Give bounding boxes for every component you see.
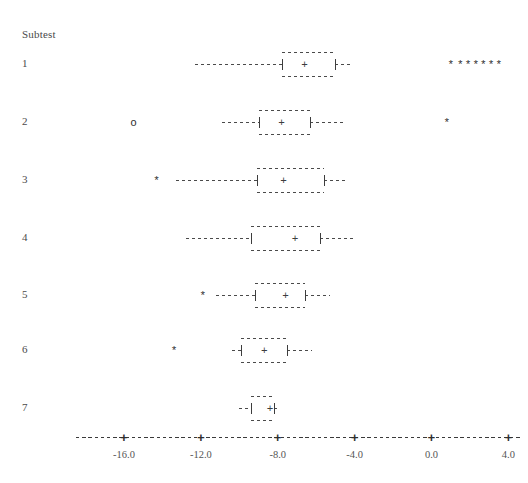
extreme-outlier-marker: * — [171, 346, 178, 357]
x-axis-tick: + — [504, 432, 512, 445]
box-edge-q3 — [324, 175, 325, 186]
box-edge-q1 — [241, 345, 242, 356]
x-axis-tick-label: 4.0 — [502, 449, 515, 460]
row-label-5: 5 — [22, 288, 28, 300]
x-axis-tick: + — [428, 432, 436, 445]
box-edge-q3 — [287, 345, 288, 356]
box-bottom — [259, 134, 311, 135]
x-axis-tick-label: -4.0 — [346, 449, 363, 460]
median-marker: + — [301, 60, 308, 71]
median-marker: + — [292, 234, 299, 245]
box-edge-q3 — [305, 290, 306, 301]
box-bottom — [255, 307, 305, 308]
whisker-right — [335, 64, 350, 65]
extreme-outlier-marker: * — [457, 60, 464, 71]
extreme-outlier-marker: * — [488, 60, 495, 71]
box-edge-q1 — [259, 117, 260, 128]
box-bottom — [257, 192, 324, 193]
extreme-outlier-marker: * — [199, 291, 206, 302]
box-top — [251, 396, 274, 397]
median-marker: + — [261, 346, 268, 357]
x-axis-tick: + — [274, 432, 282, 445]
box-top — [282, 52, 336, 53]
box-edge-q1 — [282, 59, 283, 70]
box-edge-q1 — [257, 175, 258, 186]
extreme-outlier-marker: * — [465, 60, 472, 71]
boxplot-chart: Subtest 1+*******2+o*3+*4+5+*6+*7++-16.0… — [0, 0, 528, 483]
extreme-outlier-marker: * — [444, 118, 451, 129]
row-label-3: 3 — [22, 173, 28, 185]
box-top — [259, 110, 311, 111]
extreme-outlier-marker: * — [472, 60, 479, 71]
median-marker: + — [280, 176, 287, 187]
whisker-left — [176, 180, 257, 181]
box-bottom — [282, 76, 336, 77]
row-label-7: 7 — [22, 401, 28, 413]
x-axis-tick-label: -12.0 — [190, 449, 212, 460]
box-edge-q3 — [320, 233, 321, 244]
extreme-outlier-marker: * — [153, 176, 160, 187]
x-axis-tick: + — [120, 432, 128, 445]
box-edge-q3 — [274, 403, 275, 414]
whisker-left — [216, 295, 254, 296]
x-axis-tick-label: 0.0 — [425, 449, 438, 460]
whisker-left — [239, 408, 251, 409]
box-top — [241, 338, 287, 339]
mild-outlier-marker: o — [130, 118, 137, 129]
box-edge-q3 — [335, 59, 336, 70]
median-marker: + — [278, 118, 285, 129]
whisker-right — [305, 295, 330, 296]
box-edge-q1 — [251, 403, 252, 414]
x-axis-tick: + — [197, 432, 205, 445]
row-label-2: 2 — [22, 115, 28, 127]
box-edge-q1 — [255, 290, 256, 301]
whisker-right — [287, 350, 312, 351]
box-edge-q3 — [310, 117, 311, 128]
box-edge-q1 — [251, 233, 252, 244]
row-label-6: 6 — [22, 343, 28, 355]
row-label-1: 1 — [22, 57, 28, 69]
extreme-outlier-marker: * — [495, 60, 502, 71]
box-top — [257, 168, 324, 169]
median-marker: + — [267, 404, 274, 415]
whisker-left — [232, 350, 242, 351]
whisker-left — [195, 64, 281, 65]
x-axis-line — [76, 437, 520, 438]
group-axis-title: Subtest — [22, 28, 56, 40]
box-top — [251, 226, 320, 227]
median-marker: + — [282, 291, 289, 302]
x-axis-tick: + — [351, 432, 359, 445]
x-axis-tick-label: -8.0 — [269, 449, 286, 460]
extreme-outlier-marker: * — [447, 60, 454, 71]
row-label-4: 4 — [22, 231, 28, 243]
whisker-left — [222, 122, 259, 123]
whisker-right — [320, 238, 355, 239]
x-axis-tick-label: -16.0 — [113, 449, 135, 460]
whisker-right — [324, 180, 347, 181]
whisker-left — [186, 238, 251, 239]
box-top — [255, 283, 305, 284]
box-bottom — [241, 362, 287, 363]
whisker-right — [310, 122, 345, 123]
box-bottom — [251, 250, 320, 251]
box-bottom — [251, 420, 274, 421]
extreme-outlier-marker: * — [480, 60, 487, 71]
